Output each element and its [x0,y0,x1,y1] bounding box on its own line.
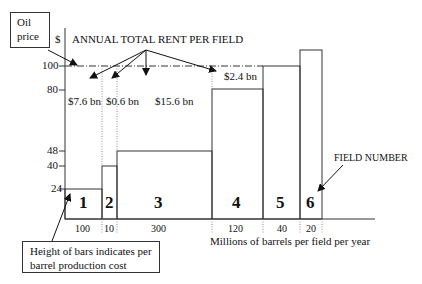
y-tick-40: 40 [47,159,58,171]
width-field-4: 120 [228,223,243,234]
width-field-6: 20 [306,223,316,234]
rent-field-3: $15.6 bn [155,95,194,107]
y-tick-24: 24 [51,182,62,194]
y-tick-48: 48 [47,144,58,156]
field-number-3: 3 [154,193,163,213]
field-number-5: 5 [276,193,285,213]
width-field-5: 40 [277,223,287,234]
width-field-3: 300 [151,223,166,234]
bar-field-3 [117,151,212,219]
y-tick-100: 100 [42,59,59,71]
field-number-1: 1 [79,193,88,213]
oil-price-label-box: Oil price [10,12,50,48]
rent-field-4: $2.4 bn [224,70,257,82]
height-note-box: Height of bars indicates per barrel prod… [22,241,160,273]
field-number-annotation: FIELD NUMBER [334,152,408,163]
oil-price-line1: Oil [17,15,49,29]
field-number-2: 2 [105,193,114,213]
field-number-6: 6 [306,193,315,213]
oil-price-line2: price [17,29,49,43]
field-number-4: 4 [232,193,241,213]
width-field-2: 10 [104,223,114,234]
x-axis-label: Millions of barrels per field per year [210,235,370,247]
height-note-line1: Height of bars indicates per [30,244,159,258]
y-unit-label: $ [55,33,61,45]
y-tick-80: 80 [47,83,58,95]
width-field-1: 100 [75,223,90,234]
rent-field-2: $0.6 bn [106,95,139,107]
height-note-line2: barrel production cost [30,258,159,272]
chart-title: ANNUAL TOTAL RENT PER FIELD [72,33,243,45]
rent-field-1: $7.6 bn [68,95,101,107]
